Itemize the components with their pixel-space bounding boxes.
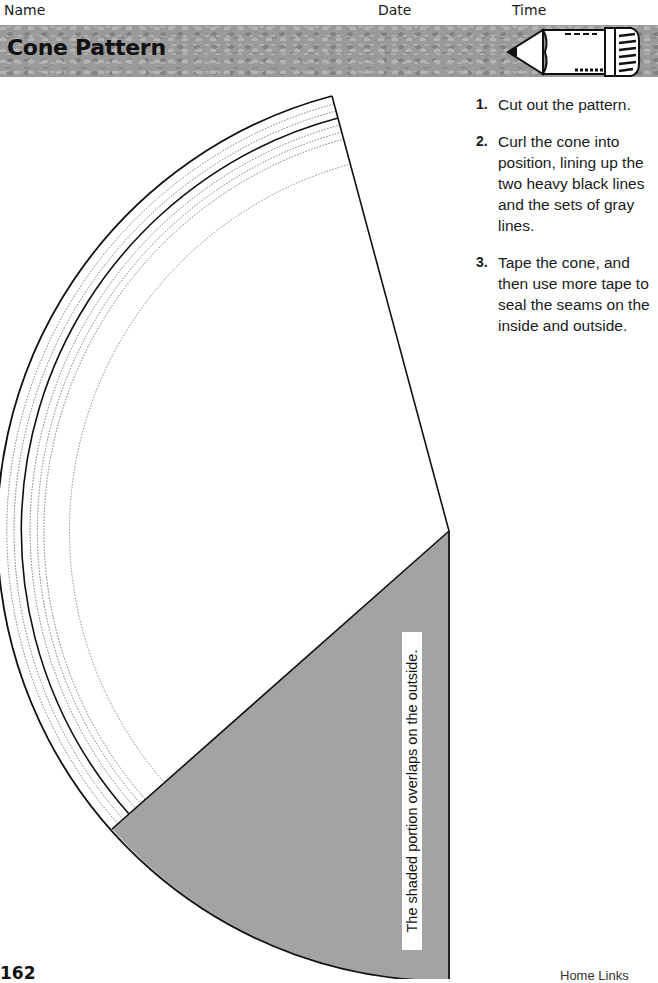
shaded-portion-label: The shaded portion overlaps on the outsi…: [402, 632, 422, 950]
page-number: 162: [0, 963, 36, 983]
footer-text: Home Links: [560, 968, 629, 983]
